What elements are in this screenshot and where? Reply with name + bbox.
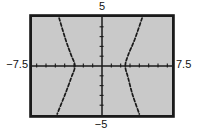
calculator-graph-figure: 5 −5 −7.5 7.5: [0, 0, 198, 131]
graph-canvas: [0, 0, 198, 131]
xmax-label: 7.5: [176, 59, 191, 70]
ymin-label: −5: [95, 119, 108, 130]
ymax-label: 5: [99, 1, 105, 12]
xmin-label: −7.5: [2, 59, 28, 70]
